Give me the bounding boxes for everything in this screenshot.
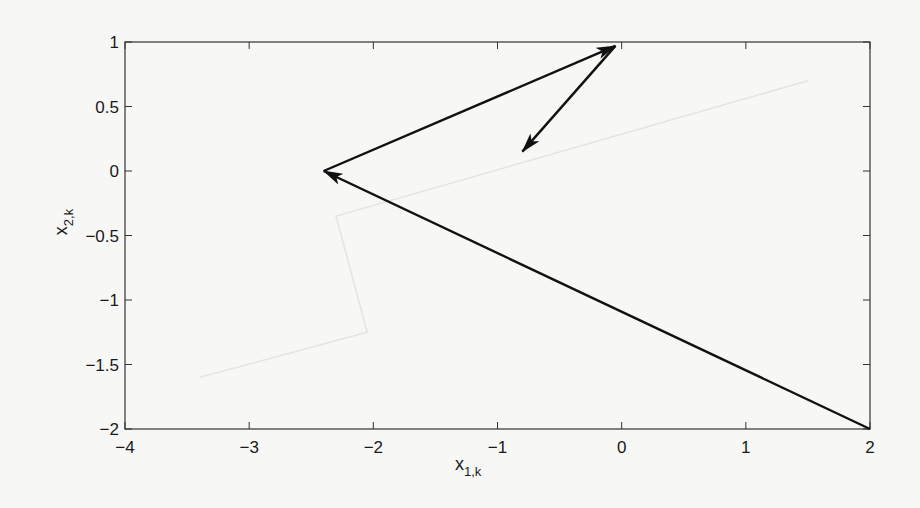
y-tick-label: 0	[110, 162, 119, 181]
x-tick-label: 2	[865, 438, 874, 457]
x-tick-label: −2	[364, 438, 383, 457]
y-tick-label: −1	[100, 291, 119, 310]
chart-figure: −4−3−2−1012 −2−1.5−1−0.500.51 x1,k x2,k	[0, 0, 920, 508]
show-through-lines	[200, 81, 808, 378]
ghost-line	[200, 81, 808, 378]
trajectory-arrow	[324, 46, 616, 171]
plot-area	[125, 42, 870, 429]
y-axis-tick-labels: −2−1.5−1−0.500.51	[85, 33, 119, 439]
x-tick-label: 0	[617, 438, 626, 457]
x-axis-tick-labels: −4−3−2−1012	[115, 438, 874, 457]
y-tick-label: −0.5	[85, 227, 119, 246]
x-tick-label: −1	[488, 438, 507, 457]
y-axis-label: x2,k	[51, 208, 76, 235]
trajectory-arrow	[324, 171, 870, 429]
trajectory-arrow	[522, 46, 615, 152]
y-tick-label: −1.5	[85, 356, 119, 375]
y-tick-label: 1	[110, 33, 119, 52]
axis-ticks	[125, 42, 870, 429]
x-tick-label: −3	[239, 438, 258, 457]
x-tick-label: −4	[115, 438, 134, 457]
x-axis-label: x1,k	[455, 454, 482, 479]
trajectory-arrows	[324, 46, 870, 429]
x-tick-label: 1	[741, 438, 750, 457]
y-tick-label: 0.5	[95, 98, 119, 117]
y-tick-label: −2	[100, 420, 119, 439]
